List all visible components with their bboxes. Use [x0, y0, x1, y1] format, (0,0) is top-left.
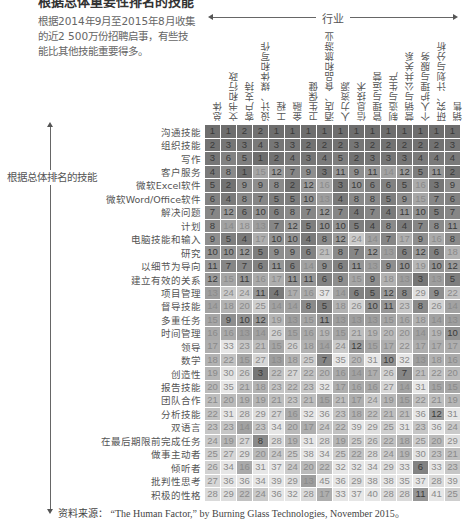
heatmap-cell: 4 — [205, 166, 220, 179]
heatmap-cell: 9 — [285, 246, 300, 259]
heatmap-cell: 2 — [333, 139, 348, 152]
heatmap-cell: 14 — [221, 220, 236, 233]
heatmap-cell: 11 — [413, 488, 428, 501]
column-header-label: 酒店、食品和旅游业 — [324, 31, 336, 121]
heatmap-cell: 6 — [301, 246, 316, 259]
heatmap-cell: 28 — [237, 408, 252, 421]
heatmap-cell: 7 — [397, 367, 412, 380]
heatmap-cell: 28 — [429, 475, 444, 488]
heatmap-cell: 13 — [429, 273, 444, 286]
table-row: 解决问题712610687127474111057 — [56, 206, 461, 219]
heatmap-cell: 1 — [221, 125, 236, 138]
heatmap-cell: 7 — [445, 206, 460, 219]
heatmap-cell: 11 — [237, 273, 252, 286]
heatmap-cell: 2 — [205, 139, 220, 152]
chart-title: 根据总体重要性排名的技能 — [38, 0, 194, 10]
heatmap-cell: 10 — [445, 327, 460, 340]
heatmap-cell: 22 — [397, 340, 412, 353]
row-label: 以细节为导向 — [56, 259, 205, 273]
heatmap-cell: 20 — [301, 461, 316, 474]
heatmap-cell: 4 — [221, 193, 236, 206]
heatmap-cell: 13 — [333, 314, 348, 327]
heatmap-cell: 2 — [349, 152, 364, 165]
heatmap-cell: 30 — [413, 448, 428, 461]
heatmap-cell: 10 — [333, 220, 348, 233]
heatmap-cell: 1 — [397, 125, 412, 138]
table-row: 分析技能22312829271632362318222121361231 — [56, 407, 461, 420]
table-row: 组织技能2334332223222223 — [56, 138, 461, 151]
heatmap-cell: 35 — [397, 475, 412, 488]
heatmap-cell: 30 — [221, 367, 236, 380]
heatmap-cell: 16 — [333, 367, 348, 380]
heatmap-cell: 13 — [301, 475, 316, 488]
heatmap-cell: 18 — [445, 246, 460, 259]
heatmap-cell: 7 — [301, 206, 316, 219]
column-header-label: 客户支持 — [244, 81, 256, 121]
heatmap-cell: 29 — [445, 435, 460, 448]
heatmap-cell: 26 — [349, 300, 364, 313]
heatmap-cell: 20 — [381, 327, 396, 340]
heatmap-cell: 10 — [285, 233, 300, 246]
table-row: 计划81418137125101054847811 — [56, 219, 461, 232]
heatmap-cell: 11 — [333, 166, 348, 179]
heatmap-cell: 23 — [237, 340, 252, 353]
heatmap-cell: 3 — [333, 179, 348, 192]
heatmap-cell: 6 — [269, 206, 284, 219]
heatmap-cell: 21 — [269, 394, 284, 407]
row-label: 创造性 — [56, 367, 205, 381]
heatmap-cell: 6 — [237, 206, 252, 219]
heatmap-cell: 12 — [269, 166, 284, 179]
heatmap-cell: 22 — [349, 448, 364, 461]
heatmap-cell: 45 — [317, 475, 332, 488]
table-row: 项目管理132424114171637146512829922 — [56, 286, 461, 299]
table-row: 积极的性格28292224363228173337402828114125 — [56, 488, 461, 501]
heatmap-cell: 2 — [429, 139, 444, 152]
heatmap-cell: 11 — [381, 300, 396, 313]
heatmap-cell: 4 — [429, 152, 444, 165]
heatmap-cell: 12 — [429, 408, 444, 421]
heatmap-cell: 20 — [253, 448, 268, 461]
heatmap-cell: 22 — [221, 354, 236, 367]
heatmap-cell: 37 — [317, 287, 332, 300]
heatmap-cell: 17 — [365, 367, 380, 380]
heatmap-cell: 32 — [397, 354, 412, 367]
heatmap-cell: 7 — [365, 206, 380, 219]
heatmap-cell: 32 — [317, 381, 332, 394]
heatmap-cell: 9 — [237, 179, 252, 192]
heatmap-cell: 3 — [221, 139, 236, 152]
heatmap-cell: 13 — [413, 354, 428, 367]
heatmap-cell: 2 — [365, 139, 380, 152]
heatmap-cell: 16 — [429, 233, 444, 246]
heatmap-cell: 3 — [365, 152, 380, 165]
heatmap-cell: 3 — [445, 139, 460, 152]
heatmap-cell: 6 — [333, 260, 348, 273]
heatmap-cell: 27 — [253, 354, 268, 367]
heatmap-cell: 22 — [317, 461, 332, 474]
heatmap-cell: 9 — [349, 166, 364, 179]
heatmap-cell: 4 — [381, 206, 396, 219]
heatmap-cell: 29 — [349, 475, 364, 488]
heatmap-cell: 4 — [253, 139, 268, 152]
heatmap-cell: 34 — [317, 448, 332, 461]
heatmap-cell: 29 — [285, 475, 300, 488]
heatmap-cell: 2 — [301, 139, 316, 152]
heatmap-cell: 18 — [205, 354, 220, 367]
row-label: 建立有效的关系 — [56, 273, 205, 287]
heatmap-cell: 4 — [301, 233, 316, 246]
heatmap-cell: 3 — [429, 179, 444, 192]
heatmap-cell: 10 — [397, 260, 412, 273]
heatmap-cell: 22 — [365, 408, 380, 421]
heatmap-cell: 4 — [365, 220, 380, 233]
heatmap-cell: 19 — [285, 435, 300, 448]
heatmap-cell: 25 — [333, 448, 348, 461]
heatmap-cell: 35 — [221, 381, 236, 394]
heatmap-cell: 10 — [365, 300, 380, 313]
heatmap-cell: 1 — [381, 125, 396, 138]
heatmap-cell: 4 — [445, 152, 460, 165]
heatmap-cell: 15 — [365, 340, 380, 353]
heatmap-cell: 13 — [381, 246, 396, 259]
heatmap-cell: 19 — [365, 327, 380, 340]
heatmap-cell: 12 — [301, 179, 316, 192]
heatmap-cell: 3 — [237, 139, 252, 152]
heatmap-cell: 9 — [301, 166, 316, 179]
